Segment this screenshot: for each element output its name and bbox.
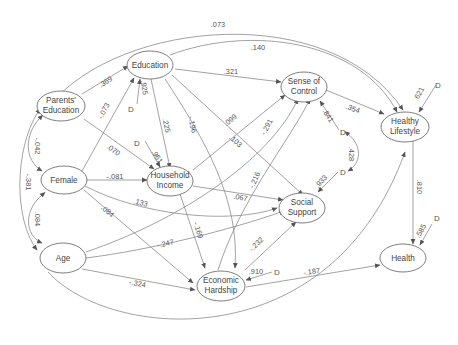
coef-age-soc: -.291 [259,117,275,136]
coef-d-edu: .925 [139,80,150,96]
coef-soc-hl: .354 [345,102,362,115]
node-female: Female [41,166,87,194]
edge-edu-hl [170,40,397,112]
node-label: Education [43,106,80,115]
coef-d-health: .585 [413,222,428,239]
node-label: Age [56,254,71,263]
coef-edu-hl: .140 [251,43,265,52]
node-label: Hardship [205,286,238,295]
coef-d-cov: .428 [347,147,356,161]
coef-age-eh: -.324 [128,278,146,290]
coef-female-edu: -.073 [96,101,112,120]
node-label: Health [391,254,415,263]
edge-pe-hi [84,119,154,169]
disturbance-social-support: D [340,168,346,177]
node-sense-of-control: Sense of Control [281,72,327,102]
node-label: Healthy [391,117,420,126]
coef-d-ss: .933 [313,173,329,190]
coef-pe-age: -.381 [24,174,33,191]
node-label: Income [157,181,184,190]
node-age: Age [40,243,86,273]
coef-hi-ss: .067 [233,192,249,203]
coef-edu-eh: -.196 [186,115,198,133]
node-label: Parents' [46,96,76,105]
node-household-income: Household Income [147,166,193,196]
disturbance-health: D [434,214,440,223]
coef-hi-eh: -.169 [191,221,205,240]
coef-female-hi: -.081 [107,172,124,181]
disturbance-healthy-lifestyle: D [435,81,441,90]
node-healthy-lifestyle: Healthy Lifestyle [381,112,429,142]
node-label: Household [150,171,190,180]
coef-pe-edu: .369 [97,74,114,89]
edge-hi-soc [193,95,285,170]
node-label: Lifestyle [390,127,420,136]
node-label: Control [291,87,318,96]
node-label: Female [50,176,78,185]
coef-d-hi: .961 [149,148,164,165]
coef-edu-soc: .321 [224,67,238,76]
coef-pe-female: -.042 [33,138,42,155]
disturbance-household-income: D [134,139,140,148]
coef-age-ss: -.247 [156,237,175,250]
node-economic-hardship: Economic Hardship [197,271,245,301]
path-diagram: Parents' Education Education Female Hous… [0,0,458,345]
coef-female-age: .084 [33,212,42,226]
coef-female-eh: .084 [99,203,116,219]
node-health: Health [380,244,426,272]
disturbance-sense-of-control: D [340,128,346,137]
node-social-support: Social Support [279,193,325,223]
coef-eh-soc: -.216 [247,170,262,189]
coef-edu-ss: .103 [227,133,244,149]
coef-eh-ss: -.232 [247,235,265,253]
coef-female-ss: .133 [133,196,149,208]
coef-pe-hl: .073 [211,20,225,29]
coef-d-eh: .910 [249,267,263,276]
coef-hl-health: .810 [415,180,424,194]
node-parents-education: Parents' Education [37,91,85,121]
node-label: Social [291,198,313,207]
node-label: Economic [203,276,239,285]
coef-d-hl: .621 [411,85,426,102]
edge-female-edu [82,78,134,171]
disturbance-education: D [128,105,134,114]
node-label: Support [288,208,317,217]
node-education: Education [127,51,173,79]
coef-hi-soc: .099 [222,112,239,128]
disturbance-economic-hardship: D [274,268,280,277]
node-label: Sense of [288,77,321,86]
node-label: Education [132,61,169,70]
